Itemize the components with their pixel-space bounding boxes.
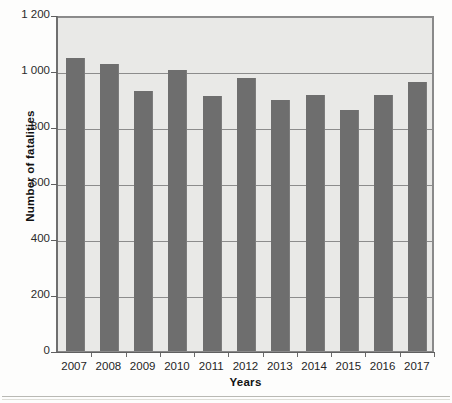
x-tick-mark-2010 [194,353,195,357]
y-tick-mark-1000 [51,72,57,73]
x-tick-label-2007: 2007 [57,360,91,372]
x-tick-label-2008: 2008 [91,360,125,372]
bar-2017 [408,82,427,351]
bar-2011 [203,96,222,351]
y-tick-mark-200 [51,296,57,297]
y-tick-label-1200: 1 200 [4,8,50,20]
bar-2012 [237,78,256,351]
x-tick-label-2009: 2009 [126,360,160,372]
bar-2014 [306,95,325,351]
x-tick-mark-2008 [126,353,127,357]
y-tick-label-1000: 1 000 [4,64,50,76]
x-tick-mark-2014 [331,353,332,357]
plot-area [58,17,432,351]
x-tick-mark-2011 [228,353,229,357]
bar-2009 [134,91,153,351]
y-tick-mark-400 [51,240,57,241]
x-tick-label-2017: 2017 [400,360,434,372]
x-tick-label-2011: 2011 [194,360,228,372]
x-axis-title: Years [57,376,434,388]
x-tick-mark-2012 [263,353,264,357]
y-tick-mark-800 [51,128,57,129]
y-tick-label-200: 200 [4,288,50,300]
y-tick-mark-1200 [51,16,57,17]
x-tick-label-2012: 2012 [228,360,262,372]
x-tick-mark-2009 [160,353,161,357]
x-tick-mark-2015 [365,353,366,357]
page-horizontal-rule-secondary [2,399,450,400]
bar-2007 [66,58,85,351]
y-tick-label-0: 0 [4,344,50,356]
x-tick-mark-2007 [91,353,92,357]
bar-2016 [374,95,393,351]
bar-2008 [100,64,119,351]
bar-2013 [271,100,290,351]
gridline-1200 [58,17,432,18]
bar-2015 [340,110,359,351]
x-tick-label-2014: 2014 [297,360,331,372]
x-tick-mark-2013 [297,353,298,357]
x-tick-label-2010: 2010 [160,360,194,372]
y-axis-title: Number of fatalities [24,76,36,256]
x-tick-mark-2016 [400,353,401,357]
x-tick-label-2016: 2016 [365,360,399,372]
x-tick-mark-2017 [434,353,435,357]
x-tick-label-2013: 2013 [263,360,297,372]
y-tick-mark-0 [51,352,57,353]
x-tick-label-2015: 2015 [331,360,365,372]
bar-2010 [168,70,187,351]
x-axis-line [52,352,435,353]
chart-plot-frame [57,16,434,352]
page-horizontal-rule [2,396,450,397]
y-tick-mark-600 [51,184,57,185]
